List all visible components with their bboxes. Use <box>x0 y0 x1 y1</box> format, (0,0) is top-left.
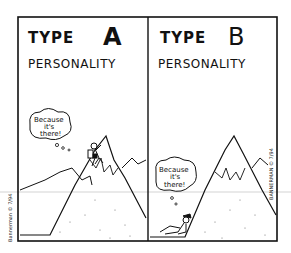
background-mountain-b <box>252 158 268 168</box>
signature-left: Bannerman © 7/94 <box>7 194 13 242</box>
panel-b-title-personality: PERSONALITY <box>158 57 246 71</box>
stipple-b <box>205 200 266 239</box>
bubble-b-line2: it's <box>170 173 181 181</box>
panel-type-a: TYPE A PERSONALITY Bec <box>20 23 146 239</box>
thought-bubble-b: Because it's there! <box>156 157 197 205</box>
panel-type-b: TYPE B PERSONALITY Because it's there! <box>150 23 276 239</box>
background-mountain-left <box>20 168 92 190</box>
panel-b-title-letter: B <box>228 23 244 51</box>
panel-a-title-letter: A <box>103 23 122 51</box>
panel-a-title-type: TYPE <box>28 29 74 47</box>
panel-a-title-personality: PERSONALITY <box>28 57 116 71</box>
main-mountain-a <box>20 136 146 235</box>
background-mountain-right <box>122 158 146 168</box>
thought-bubble-a: Because it's there! <box>30 109 71 152</box>
signature-right: BANNERMAN © 7/94 <box>268 148 274 200</box>
panel-b-title-type: TYPE <box>160 29 206 47</box>
comic-strip: TYPE A PERSONALITY Bec <box>0 0 291 253</box>
lounging-figure <box>160 214 191 234</box>
stipple-a <box>60 200 131 239</box>
bubble-a-line3: there! <box>40 130 61 138</box>
snowcap-b <box>215 168 245 180</box>
climber-figure <box>88 143 103 166</box>
bubble-b-line3: there! <box>164 181 185 189</box>
